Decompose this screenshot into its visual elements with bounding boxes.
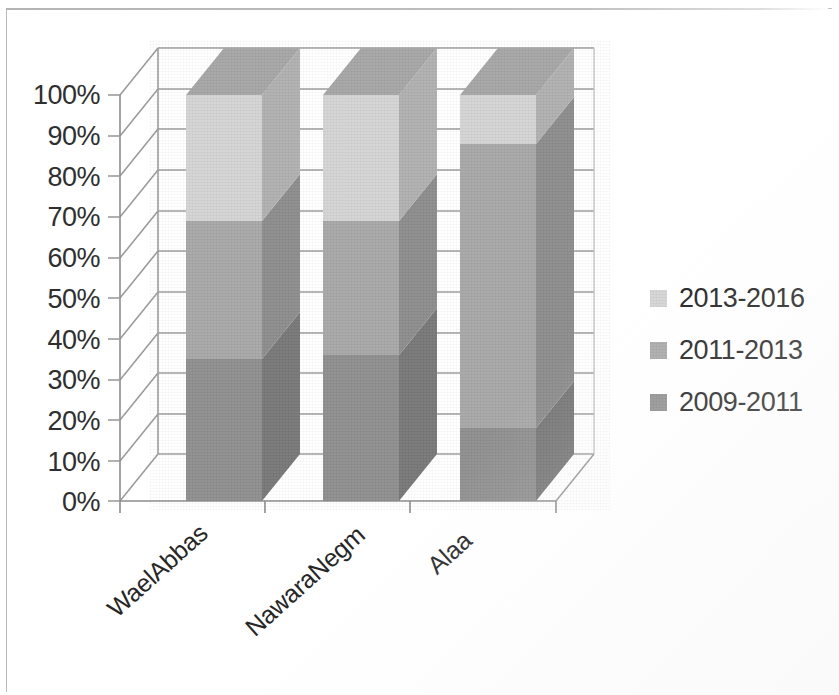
legend-label-2011-2013: 2011-2013 (679, 337, 803, 364)
legend-swatch-2011-2013 (650, 342, 667, 359)
bar-nawaranegm-segment-2013-2016[interactable] (323, 48, 437, 221)
legend-swatch-2009-2011 (650, 394, 667, 411)
bar-waelabbas[interactable] (186, 48, 300, 501)
bar-nawaranegm[interactable] (323, 48, 437, 501)
legend-item-2011-2013[interactable]: 2011-2013 (650, 324, 830, 376)
chart-legend: 2013-2016 2011-2013 2009-2011 (650, 272, 830, 428)
bar-alaa-segment-2011-2013[interactable] (460, 97, 574, 428)
legend-item-2009-2011[interactable]: 2009-2011 (650, 376, 830, 428)
legend-label-2009-2011: 2009-2011 (679, 389, 803, 416)
bar-waelabbas-segment-2013-2016[interactable] (186, 48, 300, 221)
stacked-column-chart: 100% 90% 80% 70% 60% 50% 40% 30% 20% 10%… (0, 0, 839, 695)
legend-item-2013-2016[interactable]: 2013-2016 (650, 272, 830, 324)
bar-series-group (0, 0, 680, 600)
legend-swatch-2013-2016 (650, 290, 667, 307)
legend-label-2013-2016: 2013-2016 (679, 285, 805, 312)
bar-alaa[interactable] (460, 48, 574, 501)
